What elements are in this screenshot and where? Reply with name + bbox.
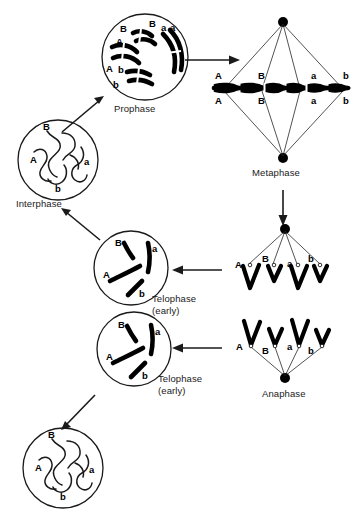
arrow-anaphase-to-telophase-lower	[172, 344, 222, 353]
caption-telophase-lower-sub: (early)	[158, 385, 202, 397]
metaphase-allele-bottom-B: B	[258, 95, 265, 106]
prophase-allele-a-1: a	[161, 22, 167, 33]
stage-prophase: B B a a A A b b	[102, 14, 188, 100]
anaphase-upper-chromosomes	[243, 263, 327, 288]
anaphase-upper-allele-a: a	[287, 258, 293, 269]
anaphase-upper-pole	[280, 224, 290, 234]
daughter-cell-chromatin	[39, 439, 92, 492]
prophase-allele-A-2: A	[106, 63, 113, 74]
interphase-allele-a: a	[84, 156, 90, 167]
telophase-lower-allele-B: B	[118, 319, 125, 330]
caption-interphase: Interphase	[16, 198, 62, 209]
daughter-allele-A: A	[35, 462, 42, 473]
metaphase-allele-top-a: a	[311, 70, 317, 81]
telophase-upper-allele-b: b	[139, 288, 145, 299]
anaphase-pole	[280, 373, 290, 383]
stage-anaphase-upper: A B a b	[235, 224, 327, 288]
arrow-telophase-lower-to-daughter	[61, 395, 95, 430]
telophase-upper-allele-A: A	[103, 269, 110, 280]
anaphase-allele-A: A	[236, 341, 243, 352]
anaphase-allele-a: a	[287, 341, 293, 352]
anaphase-allele-B: B	[262, 345, 269, 356]
metaphase-allele-top-B: B	[258, 70, 265, 81]
prophase-allele-b-2: b	[113, 79, 119, 90]
caption-telophase-upper-main: Telophase	[152, 293, 196, 305]
arrow-metaphase-to-anaphase	[279, 190, 288, 226]
prophase-allele-B-2: B	[149, 18, 156, 29]
arrow-anaphase-upper-to-telophase-upper	[172, 266, 222, 275]
anaphase-upper-allele-B: B	[262, 253, 269, 264]
arrow-interphase-to-prophase	[62, 96, 104, 132]
telophase-upper-allele-B: B	[115, 237, 122, 248]
metaphase-pole-top	[278, 17, 288, 27]
daughter-allele-a: a	[89, 464, 95, 475]
interphase-allele-b: b	[55, 183, 61, 194]
arrow-telophase-upper-to-interphase	[61, 208, 100, 240]
anaphase-allele-b: b	[308, 345, 314, 356]
caption-telophase-lower-main: Telophase	[158, 373, 202, 385]
anaphase-upper-allele-A: A	[235, 259, 242, 270]
metaphase-allele-top-b: b	[343, 70, 349, 81]
stage-interphase: B A b a	[18, 120, 98, 200]
caption-prophase: Prophase	[114, 103, 155, 114]
prophase-allele-B-1: B	[120, 23, 127, 34]
caption-metaphase: Metaphase	[252, 167, 300, 178]
telophase-lower-allele-b: b	[142, 370, 148, 381]
caption-telophase-upper: Telophase (early)	[152, 293, 196, 316]
interphase-allele-A: A	[30, 154, 37, 165]
interphase-allele-B: B	[43, 121, 50, 132]
arrow-prophase-to-metaphase	[185, 56, 240, 65]
metaphase-allele-bottom-A: A	[215, 95, 222, 106]
metaphase-allele-bottom-b: b	[343, 95, 349, 106]
metaphase-pole-bottom	[278, 153, 288, 163]
stage-anaphase: A B a b	[236, 320, 329, 383]
metaphase-chromosomes	[214, 82, 348, 94]
stage-metaphase: A B a b A B a b	[214, 17, 349, 163]
anaphase-upper-allele-b: b	[308, 253, 314, 264]
prophase-allele-A-1: A	[116, 36, 123, 47]
metaphase-allele-top-A: A	[215, 70, 222, 81]
telophase-lower-allele-a: a	[155, 326, 161, 337]
prophase-allele-a-2: a	[170, 22, 176, 33]
caption-telophase-upper-sub: (early)	[152, 305, 196, 317]
mitosis-diagram: B A b a	[0, 0, 361, 528]
stage-daughter-cell: B A b a	[23, 428, 103, 508]
prophase-allele-b-1: b	[118, 64, 124, 75]
interphase-chromatin	[34, 131, 87, 184]
daughter-allele-B: B	[48, 429, 55, 440]
diagram-canvas: B A b a	[0, 0, 361, 528]
caption-anaphase: Anaphase	[262, 388, 306, 399]
daughter-allele-b: b	[60, 491, 66, 502]
metaphase-allele-bottom-a: a	[311, 95, 317, 106]
telophase-lower-allele-A: A	[106, 351, 113, 362]
telophase-upper-allele-a: a	[152, 243, 158, 254]
caption-telophase-lower: Telophase (early)	[158, 373, 202, 396]
